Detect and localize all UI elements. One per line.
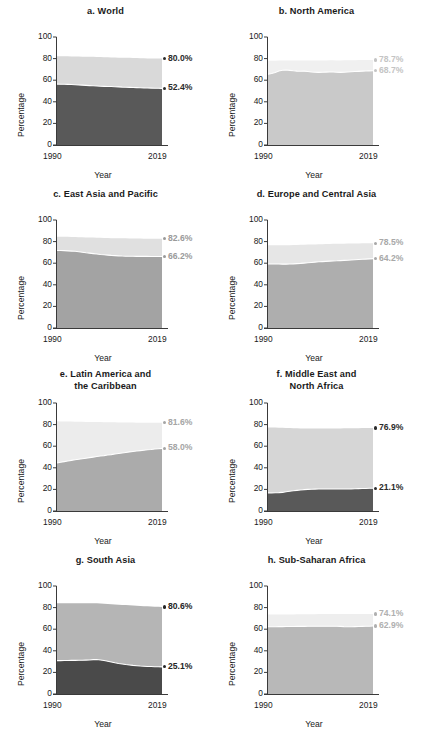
x-tick-label-end: 2019 (359, 517, 378, 527)
y-tick-label: 0 (20, 139, 52, 149)
y-axis-label: Percentage (227, 276, 237, 320)
area-lower-band (268, 70, 373, 145)
y-tick-label: 80 (20, 236, 52, 246)
small-multiples-grid: a. World100806040200Percentage19902019Ye… (0, 0, 422, 732)
y-tick-label: 0 (231, 139, 263, 149)
panel-h: h. Sub-Saharan Africa100806040200Percent… (211, 549, 422, 732)
y-axis-label: Percentage (16, 93, 26, 137)
x-axis-label: Year (239, 353, 389, 363)
y-tick-label: 0 (20, 505, 52, 515)
panel-c: c. East Asia and Pacific100806040200Perc… (0, 183, 211, 366)
area-lower-band (268, 626, 373, 694)
y-tick-label: 80 (20, 53, 52, 63)
x-axis-label: Year (28, 719, 178, 729)
endpoint-value-label: 64.2% (379, 253, 403, 263)
y-tick-label: 80 (20, 602, 52, 612)
y-tick-label: 100 (20, 31, 52, 41)
plot-area (211, 0, 422, 183)
x-tick-label-end: 2019 (148, 334, 167, 344)
area-lower-band (57, 250, 162, 328)
x-tick-label-end: 2019 (148, 151, 167, 161)
area-upper-band (57, 603, 162, 667)
y-tick-label: 100 (231, 31, 263, 41)
x-tick-label-end: 2019 (359, 334, 378, 344)
endpoint-value-label: 80.6% (168, 601, 192, 611)
panel-a: a. World100806040200Percentage19902019Ye… (0, 0, 211, 183)
y-tick-label: 100 (20, 580, 52, 590)
plot-area (0, 183, 211, 366)
y-tick-label: 80 (231, 53, 263, 63)
area-upper-band (268, 614, 373, 627)
plot-area (0, 549, 211, 732)
plot-area (211, 183, 422, 366)
x-tick-label-start: 1990 (254, 517, 273, 527)
panel-g: g. South Asia100806040200Percentage19902… (0, 549, 211, 732)
y-tick-label: 60 (20, 257, 52, 267)
y-tick-label: 80 (231, 602, 263, 612)
x-tick-label-start: 1990 (254, 700, 273, 710)
y-tick-label: 60 (20, 74, 52, 84)
plot-area (0, 366, 211, 549)
y-tick-label: 0 (231, 505, 263, 515)
endpoint-marker-dot (374, 426, 377, 429)
endpoint-marker-dot (374, 58, 377, 61)
endpoint-value-label: 66.2% (168, 251, 192, 261)
x-tick-label-start: 1990 (43, 334, 62, 344)
y-axis-label: Percentage (16, 642, 26, 686)
y-tick-label: 0 (20, 688, 52, 698)
endpoint-marker-dot (374, 624, 377, 627)
endpoint-marker-dot (374, 612, 377, 615)
x-axis-label: Year (239, 536, 389, 546)
y-axis-label: Percentage (16, 276, 26, 320)
endpoint-value-label: 74.1% (379, 608, 403, 618)
x-axis-label: Year (28, 536, 178, 546)
area-lower-band (57, 84, 162, 145)
endpoint-value-label: 62.9% (379, 620, 403, 630)
x-axis-label: Year (28, 353, 178, 363)
x-axis-label: Year (239, 719, 389, 729)
y-tick-label: 80 (231, 419, 263, 429)
endpoint-value-label: 52.4% (168, 82, 192, 92)
x-axis-label: Year (28, 170, 178, 180)
panel-b: b. North America100806040200Percentage19… (211, 0, 422, 183)
x-tick-label-end: 2019 (359, 151, 378, 161)
y-tick-label: 60 (231, 74, 263, 84)
endpoint-value-label: 78.7% (379, 54, 403, 64)
y-tick-label: 100 (231, 214, 263, 224)
x-tick-label-end: 2019 (148, 700, 167, 710)
plot-area (211, 366, 422, 549)
x-tick-label-start: 1990 (43, 151, 62, 161)
x-tick-label-start: 1990 (254, 334, 273, 344)
x-tick-label-end: 2019 (148, 517, 167, 527)
y-tick-label: 60 (20, 440, 52, 450)
endpoint-value-label: 76.9% (379, 422, 403, 432)
y-tick-label: 60 (20, 623, 52, 633)
x-axis-label: Year (239, 170, 389, 180)
panel-e: e. Latin America andthe Caribbean1008060… (0, 366, 211, 549)
y-axis-label: Percentage (227, 93, 237, 137)
plot-area (211, 549, 422, 732)
band-separator-line (268, 626, 373, 627)
y-tick-label: 60 (231, 257, 263, 267)
endpoint-marker-dot (374, 487, 377, 490)
endpoint-value-label: 58.0% (168, 442, 192, 452)
y-tick-label: 60 (231, 440, 263, 450)
y-tick-label: 80 (20, 419, 52, 429)
x-tick-label-start: 1990 (43, 700, 62, 710)
endpoint-marker-dot (163, 605, 166, 608)
panel-f: f. Middle East andNorth Africa1008060402… (211, 366, 422, 549)
panel-d: d. Europe and Central Asia100806040200Pe… (211, 183, 422, 366)
endpoint-value-label: 82.6% (168, 233, 192, 243)
x-tick-label-end: 2019 (359, 700, 378, 710)
y-tick-label: 100 (231, 580, 263, 590)
endpoint-value-label: 21.1% (379, 482, 403, 492)
endpoint-marker-dot (374, 242, 377, 245)
y-axis-label: Percentage (16, 459, 26, 503)
y-tick-label: 60 (231, 623, 263, 633)
endpoint-value-label: 25.1% (168, 661, 192, 671)
area-upper-band (268, 427, 373, 492)
y-tick-label: 0 (231, 322, 263, 332)
y-tick-label: 100 (20, 397, 52, 407)
y-tick-label: 0 (20, 322, 52, 332)
y-axis-label: Percentage (227, 642, 237, 686)
